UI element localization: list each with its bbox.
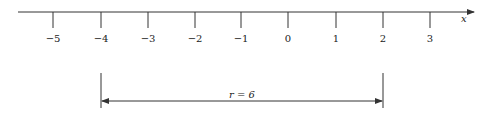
tick-label: 0 [285, 33, 291, 44]
tick-label: −4 [94, 33, 109, 44]
tick-label: −5 [46, 33, 61, 44]
tick-label: 3 [427, 33, 433, 44]
axis-ticks: −5−4−3−2−10123 [46, 12, 434, 44]
range-bracket: r = 6 [101, 73, 383, 108]
tick-label: −3 [141, 33, 156, 44]
tick-label: −2 [188, 33, 203, 44]
x-axis-variable-label: x [461, 13, 467, 24]
tick-label: −1 [234, 33, 249, 44]
tick-label: 2 [380, 33, 386, 44]
range-label: r = 6 [229, 89, 256, 100]
number-line-diagram: x −5−4−3−2−10123 r = 6 [0, 0, 487, 119]
tick-label: 1 [333, 33, 339, 44]
